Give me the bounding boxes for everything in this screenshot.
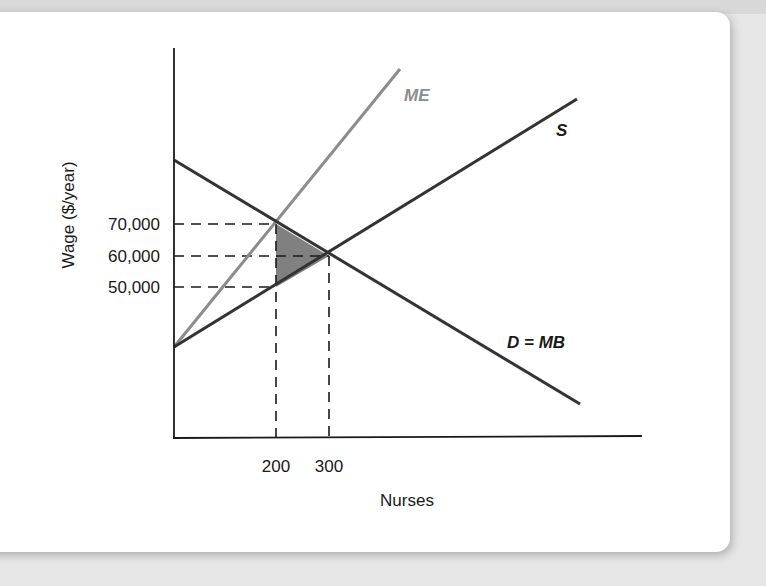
y-tick-50000: 50,000 xyxy=(108,278,160,297)
y-tick-60000: 60,000 xyxy=(108,247,160,266)
demand-curve xyxy=(174,160,580,404)
x-axis xyxy=(173,436,642,438)
me-curve xyxy=(174,69,400,347)
x-axis-label: Nurses xyxy=(380,491,434,510)
x-tick-300: 300 xyxy=(315,457,343,476)
y-axis-label: Wage ($/year) xyxy=(59,161,78,268)
me-label: ME xyxy=(404,86,430,105)
demand-label: D = MB xyxy=(507,333,565,352)
y-tick-70000: 70,000 xyxy=(108,215,160,234)
supply-label: S xyxy=(556,121,568,140)
supply-curve xyxy=(174,99,577,347)
chart: 70,000 60,000 50,000 200 300 Nurses Wage… xyxy=(0,0,766,586)
x-tick-200: 200 xyxy=(262,457,290,476)
